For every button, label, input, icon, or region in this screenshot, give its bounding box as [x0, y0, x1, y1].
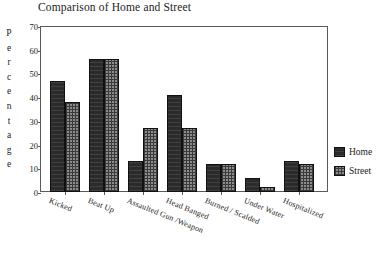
chart-legend: HomeStreet — [334, 147, 383, 185]
x-axis-tick-mark — [299, 192, 300, 195]
y-axis-tick-label: 60 — [30, 46, 39, 56]
x-axis-tick-mark — [65, 192, 66, 195]
y-axis-title: Percentage — [3, 26, 15, 172]
y-axis-tick-label: 20 — [30, 141, 39, 151]
bar-home — [50, 81, 65, 192]
y-axis-title-letter: g — [3, 143, 15, 158]
x-axis-tick-mark — [104, 192, 105, 195]
bar-chart: Comparison of Home and Street Percentage… — [0, 0, 383, 256]
legend-item: Home — [334, 147, 383, 157]
legend-swatch-street — [334, 166, 345, 176]
x-axis-tick-mark — [260, 192, 261, 195]
y-axis-tick-label: 30 — [30, 117, 39, 127]
bar-group — [245, 26, 275, 192]
legend-item: Street — [334, 166, 383, 176]
bar-group — [128, 26, 158, 192]
y-axis-title-letter: P — [3, 26, 15, 41]
y-axis-title-letter: c — [3, 70, 15, 85]
bar-home — [245, 178, 260, 192]
bar-street — [104, 59, 119, 192]
bar-group — [206, 26, 236, 192]
y-axis-title-letter: t — [3, 114, 15, 129]
legend-swatch-home — [334, 147, 345, 157]
bar-series-container — [40, 26, 328, 192]
bar-street — [299, 164, 314, 192]
bar-group — [284, 26, 314, 192]
y-axis-title-letter: e — [3, 41, 15, 56]
y-axis-title-letter: e — [3, 157, 15, 172]
bar-street — [182, 128, 197, 192]
bar-street — [221, 164, 236, 192]
x-axis-tick-mark — [221, 192, 222, 195]
y-axis-title-letter: n — [3, 99, 15, 114]
legend-label: Street — [349, 166, 371, 176]
bar-home — [89, 59, 104, 192]
x-axis-tick-label: Kicked — [48, 196, 74, 213]
bar-street — [143, 128, 158, 192]
x-axis-tick-mark — [143, 192, 144, 195]
y-axis-title-letter: e — [3, 84, 15, 99]
bar-home — [206, 164, 221, 192]
x-axis-tick-mark — [182, 192, 183, 195]
y-axis-tick-mark — [38, 193, 41, 194]
y-axis-title-letter: r — [3, 55, 15, 70]
bar-home — [167, 95, 182, 192]
y-axis-tick-label: 10 — [30, 164, 39, 174]
x-axis-tick-label: Beat Up — [87, 196, 116, 215]
legend-label: Home — [349, 147, 372, 157]
bar-street — [260, 187, 275, 192]
y-axis-tick-label: 70 — [30, 22, 39, 32]
x-axis-tick-label: Hospitalized — [282, 196, 325, 220]
bar-home — [128, 161, 143, 192]
bar-group — [167, 26, 197, 192]
y-axis-title-letter: a — [3, 128, 15, 143]
bar-street — [65, 102, 80, 192]
bar-group — [50, 26, 80, 192]
chart-title: Comparison of Home and Street — [38, 1, 191, 13]
bar-home — [284, 161, 299, 192]
y-axis-tick-label: 50 — [30, 69, 39, 79]
x-axis-labels: KickedBeat UpAssaulted Gun /WeaponHead B… — [40, 196, 328, 254]
bar-group — [89, 26, 119, 192]
y-axis-tick-label: 40 — [30, 93, 39, 103]
